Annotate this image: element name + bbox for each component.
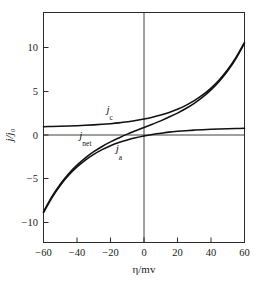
y-tick-label--10: −10 [22,217,38,228]
curve-label-j-a: ja [114,142,123,161]
x-tick-label-60: 60 [239,247,250,258]
x-tick-label--40: −40 [69,247,85,258]
butler-volmer-chart: −60 −40 −20 0 20 40 60 10 5 0 −5 −10 η/m… [0,0,261,283]
x-tick-labels: −60 −40 −20 0 20 40 60 [35,247,249,258]
x-tick-label-20: 20 [172,247,183,258]
y-axis-ticks [44,48,49,223]
y-tick-label--5: −5 [27,173,38,184]
curve-label-j-net: jnet [77,129,92,148]
x-tick-label--20: −20 [102,247,118,258]
x-axis-ticks [44,238,245,243]
y-tick-label-5: 5 [33,86,38,97]
y-tick-label-0: 0 [33,130,38,141]
figure-root: −60 −40 −20 0 20 40 60 10 5 0 −5 −10 η/m… [0,0,261,283]
curve-annotations: jc jnet ja [77,103,122,162]
x-tick-label-40: 40 [206,247,217,258]
y-tick-label-10: 10 [28,42,39,53]
x-axis-title: η/mv [133,263,156,275]
curve-label-j-c: jc [104,103,113,122]
x-tick-label-0: 0 [141,247,146,258]
y-axis-title: j/j₀ [3,128,15,143]
y-tick-labels: 10 5 0 −5 −10 [22,42,38,228]
x-tick-label--60: −60 [35,247,51,258]
caption-cut-text [0,277,261,283]
